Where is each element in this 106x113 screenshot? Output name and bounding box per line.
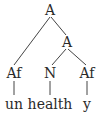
node-a: A bbox=[62, 35, 72, 49]
leaf-y: y bbox=[83, 97, 91, 111]
edge-root-a2 bbox=[51, 17, 66, 35]
node-af-left: Af bbox=[6, 66, 21, 80]
edge-a2-n bbox=[52, 49, 66, 65]
leaf-health: health bbox=[28, 97, 73, 111]
edge-root-af1 bbox=[14, 17, 50, 65]
node-n: N bbox=[44, 66, 56, 80]
node-root-a: A bbox=[45, 3, 55, 17]
leaf-un: un bbox=[5, 97, 23, 111]
edge-a2-af2 bbox=[68, 49, 86, 65]
node-af-right: Af bbox=[79, 66, 94, 80]
